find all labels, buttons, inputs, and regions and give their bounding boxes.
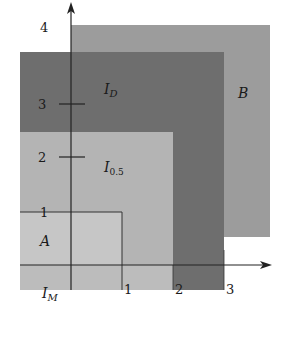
y-tick-label-2: 2: [38, 150, 46, 165]
x-tick-label-2: 2: [175, 282, 183, 297]
y-tick-label-4: 4: [40, 20, 48, 35]
set-diagram: 4 3 2 1 1 2 3 B ID I0.5 A IM: [0, 0, 288, 346]
label-b: B: [237, 85, 248, 101]
x-tick-label-1: 1: [124, 282, 132, 297]
y-tick-label-3: 3: [38, 97, 46, 112]
label-a: A: [38, 233, 50, 249]
x-tick-label-3: 3: [226, 282, 234, 297]
y-tick-label-1: 1: [40, 205, 48, 220]
